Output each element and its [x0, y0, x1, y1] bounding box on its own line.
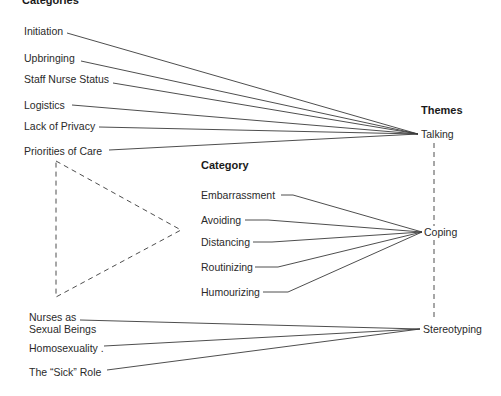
- category-sick-role: The “Sick” Role: [29, 366, 101, 378]
- connector-homosexuality-stereotyping: [104, 329, 420, 346]
- theme-coping: Coping: [424, 226, 457, 238]
- category-lack-of-privacy: Lack of Privacy: [24, 120, 95, 132]
- category-homosexuality: Homosexuality .: [29, 342, 104, 354]
- category-priorities-of-care: Priorities of Care: [24, 145, 102, 157]
- connector-priorities-of-care-talking: [109, 134, 418, 150]
- connector-nurses-sexual-beings-stereotyping: [80, 320, 420, 329]
- connector-upbringing-talking: [81, 61, 418, 134]
- thematic-diagram: Categories Category Themes Initiation Up…: [0, 0, 501, 396]
- category-staff-nurse-status: Staff Nurse Status: [24, 73, 109, 85]
- connector-lack-of-privacy-talking: [99, 127, 418, 134]
- dashed-triangle: [56, 161, 181, 297]
- theme-stereotyping: Stereotyping: [423, 323, 482, 335]
- theme-talking: Talking: [421, 128, 454, 140]
- category-routinizing: Routinizing: [201, 261, 253, 273]
- category-nurses-as-sexual-beings: Nurses as Sexual Beings: [29, 312, 96, 335]
- category-sexual-beings-line2: Sexual Beings: [29, 324, 96, 336]
- category-initiation: Initiation: [24, 25, 63, 37]
- category-humourizing: Humourizing: [201, 286, 260, 298]
- category-embarrassment: Embarrassment: [201, 189, 275, 201]
- category-heading: Category: [201, 159, 249, 171]
- category-avoiding: Avoiding: [201, 214, 241, 226]
- connector-distancing-coping: [253, 232, 422, 242]
- category-upbringing: Upbringing: [24, 52, 75, 64]
- connector-sick-role-stereotyping: [107, 329, 420, 370]
- themes-heading: Themes: [421, 104, 463, 116]
- categories-heading: Categories: [22, 0, 79, 6]
- connector-staff-nurse-status-talking: [113, 83, 418, 134]
- category-distancing: Distancing: [201, 236, 250, 248]
- connector-avoiding-coping: [245, 220, 422, 232]
- category-nurses-as-line1: Nurses as: [29, 312, 96, 324]
- category-logistics: Logistics: [24, 99, 65, 111]
